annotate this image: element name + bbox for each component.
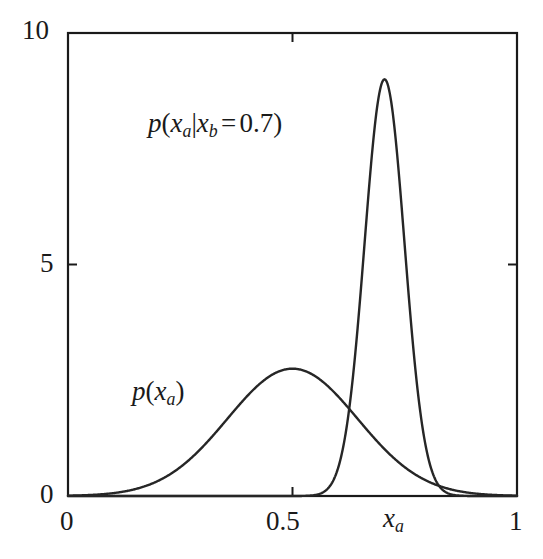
- x-axis-label: xa: [383, 505, 404, 536]
- cond-close-paren: ): [273, 108, 282, 138]
- marg-x: x: [155, 376, 167, 406]
- x-axis-label-symbol: x: [383, 503, 395, 533]
- x-tick-label-0: 0: [60, 508, 74, 535]
- axes-frame: [68, 33, 517, 496]
- cond-open-paren: (: [162, 108, 171, 138]
- x-tick-label-1: 1: [509, 508, 523, 535]
- figure-container: 10 5 0 0 0.5 1 xa p(xa|xb=0.7) p(xa): [0, 0, 543, 559]
- y-tick-label-10: 10: [22, 17, 49, 44]
- marg-p: p: [132, 376, 146, 406]
- x-axis-label-subscript: a: [395, 516, 404, 536]
- x-tick-label-0.5: 0.5: [266, 508, 300, 535]
- cond-equals: =: [218, 108, 240, 138]
- marg-close-paren: ): [175, 376, 184, 406]
- cond-value: 0.7: [239, 108, 273, 138]
- label-marginal-distribution: p(xa): [132, 378, 184, 409]
- cond-sub2: b: [209, 121, 218, 141]
- y-tick-label-0: 0: [40, 481, 54, 508]
- cond-x2: x: [197, 108, 209, 138]
- curve-group: [68, 79, 517, 496]
- y-tick-label-5: 5: [40, 250, 54, 277]
- plot-frame: [68, 33, 517, 496]
- curve-conditional-p-xa-given-xb: [68, 79, 517, 496]
- cond-p: p: [148, 108, 162, 138]
- label-conditional-distribution: p(xa|xb=0.7): [148, 110, 282, 141]
- marg-open-paren: (: [146, 376, 155, 406]
- cond-x1: x: [171, 108, 183, 138]
- plot-canvas: [0, 0, 543, 559]
